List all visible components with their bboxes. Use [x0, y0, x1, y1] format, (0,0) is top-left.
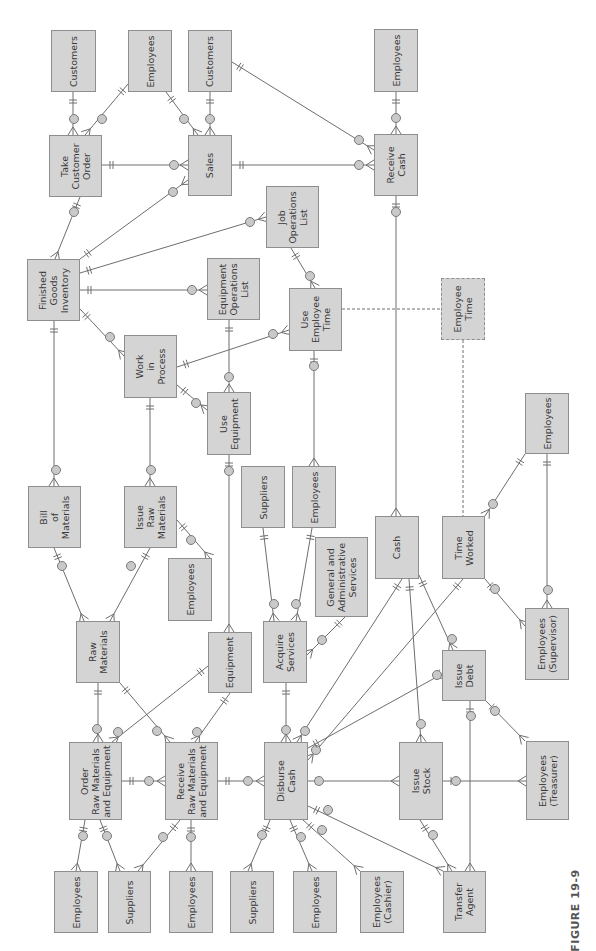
- entity-label: Order Raw Materials and Equipment: [79, 745, 112, 817]
- entity-employees-irm: Employees: [168, 558, 212, 621]
- relationship-line: [291, 248, 315, 288]
- entity-issue-stock: Issue Stock: [399, 742, 443, 820]
- entity-job-operations-list: Job Operations List: [266, 186, 319, 248]
- optional-circle-icon: [187, 833, 196, 842]
- entity-label: Suppliers: [258, 475, 269, 519]
- optional-circle-icon: [145, 777, 154, 786]
- relationship-line: [138, 820, 180, 871]
- entity-label: Suppliers: [124, 880, 135, 924]
- entity-order-rm-eq: Order Raw Materials and Equipment: [69, 742, 122, 820]
- optional-circle-icon: [103, 832, 112, 841]
- entity-label: Raw Materials: [87, 630, 109, 674]
- optional-circle-icon: [225, 373, 234, 382]
- entity-label: Employees (Treasurer): [537, 755, 559, 807]
- entity-customers-1: Customers: [51, 30, 96, 92]
- optional-circle-icon: [301, 727, 310, 736]
- entity-work-in-process: Work in Process: [124, 335, 177, 398]
- entity-label: Employees (Cashier): [371, 876, 393, 928]
- optional-circle-icon: [448, 635, 457, 644]
- diagram-canvas: CustomersEmployeesCustomersEmployeesTake…: [0, 0, 596, 951]
- optional-circle-icon: [318, 826, 327, 835]
- relationship-line: [120, 683, 170, 742]
- optional-circle-icon: [114, 728, 123, 737]
- entity-label: Use Employee Time: [299, 296, 332, 343]
- entity-label: Employees: [186, 876, 197, 928]
- cardinality-bar: [80, 827, 88, 828]
- relationship-line: [110, 548, 150, 621]
- entity-transfer-agent: Transfer Agent: [443, 871, 486, 933]
- entity-time-worked: Time Worked: [442, 516, 485, 579]
- entity-sales: Sales: [188, 135, 232, 196]
- optional-circle-icon: [70, 208, 79, 217]
- entity-label: Finished Goods Inventory: [37, 267, 70, 312]
- entity-label: Bill of Materials: [38, 495, 71, 539]
- cardinality-bar: [406, 590, 414, 591]
- optional-circle-icon: [270, 600, 279, 609]
- relationship-line: [232, 62, 374, 150]
- entity-equipment: Equipment: [208, 632, 252, 693]
- optional-circle-icon: [180, 115, 189, 124]
- entity-label: Work in Process: [134, 348, 167, 384]
- optional-circle-icon: [188, 286, 197, 295]
- figure-caption: FIGURE 19-9: [560, 870, 590, 950]
- entity-label: Customers: [205, 35, 216, 86]
- optional-circle-icon: [491, 707, 500, 716]
- optional-circle-icon: [244, 777, 253, 786]
- optional-circle-icon: [147, 466, 156, 475]
- entity-label: Customers: [68, 35, 79, 86]
- optional-circle-icon: [192, 399, 201, 408]
- entity-label: Acquire Services: [274, 632, 296, 672]
- entity-employees-treasurer: Employees (Treasurer): [526, 741, 569, 820]
- optional-circle-icon: [429, 831, 438, 840]
- entity-label: Job Operations List: [276, 191, 309, 243]
- optional-circle-icon: [417, 720, 426, 729]
- cardinality-bar: [306, 538, 314, 539]
- entity-employees-b1: Employees: [54, 871, 98, 933]
- figure-caption-text: FIGURE 19-9: [569, 869, 582, 951]
- entity-label: Suppliers: [247, 880, 258, 924]
- cardinality-bar: [406, 587, 414, 588]
- entity-label: General and Administrative Services: [325, 542, 358, 611]
- entity-label: Employees: [391, 35, 402, 87]
- entity-label: Use Equipment: [218, 398, 240, 450]
- entity-label: Employees: [71, 876, 82, 928]
- optional-circle-icon: [193, 728, 202, 737]
- optional-circle-icon: [318, 636, 327, 645]
- entity-label: Employees (Supervisor): [536, 615, 558, 673]
- entity-employees-tco: Employees: [128, 30, 172, 92]
- entity-label: Issue Debt: [453, 663, 475, 688]
- relationship-line: [55, 197, 80, 259]
- optional-circle-icon: [206, 115, 215, 124]
- relationship-line: [308, 674, 442, 748]
- cardinality-bar: [307, 535, 315, 536]
- optional-circle-icon: [169, 188, 178, 197]
- entity-label: Issue Raw Materials: [134, 495, 167, 539]
- optional-circle-icon: [79, 832, 88, 841]
- optional-circle-icon: [127, 562, 136, 571]
- entity-label: Equipment: [225, 637, 236, 689]
- optional-circle-icon: [58, 562, 67, 571]
- entity-suppliers-as: Suppliers: [241, 466, 285, 528]
- entity-label: Receive Cash: [385, 146, 407, 183]
- optional-circle-icon: [452, 777, 461, 786]
- entity-employees-b2: Employees: [169, 871, 213, 933]
- entity-raw-materials: Raw Materials: [76, 621, 120, 683]
- entity-label: Take Customer Order: [59, 143, 92, 189]
- optional-circle-icon: [315, 777, 324, 786]
- entity-take-customer-order: Take Customer Order: [49, 135, 102, 197]
- cardinality-bar: [293, 255, 300, 259]
- entity-label: Issue Stock: [410, 768, 432, 794]
- entity-employees-rc: Employees: [374, 29, 418, 92]
- entity-label: Employees: [309, 471, 320, 523]
- optional-circle-icon: [392, 208, 401, 217]
- optional-circle-icon: [70, 115, 79, 124]
- relationship-line: [177, 385, 207, 410]
- entity-label: Cash: [392, 536, 403, 559]
- cardinality-bar: [260, 538, 268, 539]
- cardinality-bar: [260, 535, 268, 536]
- optional-circle-icon: [544, 586, 553, 595]
- cardinality-bar: [143, 553, 150, 557]
- entity-gen-admin-services: General and Administrative Services: [315, 537, 368, 617]
- entity-bill-of-materials: Bill of Materials: [28, 486, 81, 548]
- optional-circle-icon: [187, 536, 196, 545]
